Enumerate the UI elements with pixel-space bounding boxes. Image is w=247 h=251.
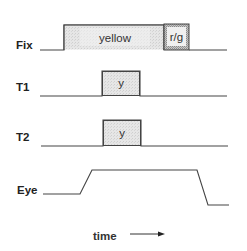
t2-label: T2 (16, 131, 29, 143)
fix-label: Fix (16, 39, 33, 51)
t1-label: T1 (16, 81, 30, 93)
eye-row: Eye (17, 170, 229, 205)
t1-box-label: y (118, 77, 124, 89)
t2-box-label: y (119, 127, 125, 139)
time-axis: time (93, 230, 165, 242)
fix-rg-label: r/g (170, 31, 183, 43)
fix-yellow-label: yellow (99, 32, 132, 44)
time-label: time (93, 230, 117, 242)
timing-diagram: Fix yellow r/g T1 y T2 y Eye time (0, 0, 247, 251)
t2-row: T2 y (16, 120, 228, 146)
fix-row: Fix yellow r/g (16, 24, 227, 51)
eye-label: Eye (17, 184, 37, 196)
eye-trace (43, 170, 229, 205)
arrow-right-icon (158, 232, 165, 237)
t1-row: T1 y (16, 71, 227, 96)
